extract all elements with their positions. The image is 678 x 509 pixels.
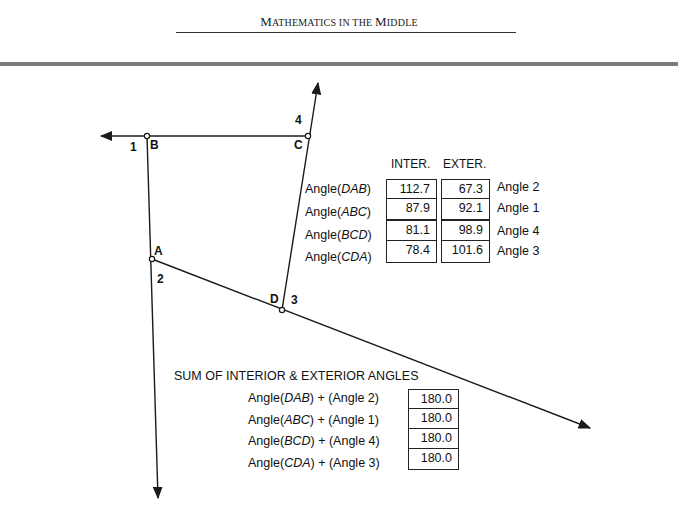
point-c[interactable]: [305, 133, 310, 138]
exterior-angle-label: Angle 2: [497, 180, 539, 194]
col-header-exterior: EXTER.: [443, 157, 486, 171]
sum-row-label: Angle(ABC) + (Angle 1): [248, 413, 379, 427]
angle-name: CDA: [341, 250, 367, 264]
interior-value: 81.1: [386, 220, 437, 241]
angle-name: DAB: [284, 391, 310, 405]
exterior-value: 98.9: [441, 220, 490, 241]
label-prefix: Angle(: [248, 434, 284, 448]
label-d: D: [270, 292, 279, 306]
label-suffix: ) + (Angle 3): [311, 456, 380, 470]
label-prefix: Angle(: [248, 456, 284, 470]
label-c: C: [294, 138, 303, 152]
interior-value: 112.7: [386, 179, 437, 199]
exterior-value: 92.1: [441, 199, 490, 220]
interior-value: 78.4: [386, 240, 437, 263]
sum-row-label: Angle(BCD) + (Angle 4): [248, 434, 380, 448]
angle-1-label: 1: [130, 140, 137, 154]
sum-value: 180.0: [408, 448, 459, 470]
label-suffix: ) + (Angle 2): [310, 391, 379, 405]
sum-table-title: SUM OF INTERIOR & EXTERIOR ANGLES: [174, 369, 418, 383]
sum-row-label: Angle(DAB) + (Angle 2): [248, 391, 379, 405]
point-b[interactable]: [144, 133, 149, 138]
exterior-value: 101.6: [441, 240, 490, 263]
label-prefix: Angle(: [305, 250, 341, 264]
angle-name: DAB: [341, 182, 367, 196]
label-suffix: ): [368, 228, 372, 242]
angle-4-label: 4: [295, 113, 302, 127]
angle-name: ABC: [284, 413, 310, 427]
point-d[interactable]: [279, 307, 284, 312]
sum-value: 180.0: [408, 408, 459, 429]
label-prefix: Angle(: [248, 413, 284, 427]
label-prefix: Angle(: [305, 205, 341, 219]
angle-name: ABC: [341, 205, 367, 219]
sum-value: 180.0: [408, 428, 459, 449]
label-prefix: Angle(: [305, 228, 341, 242]
exterior-angle-label: Angle 3: [497, 244, 539, 258]
label-suffix: ) + (Angle 1): [310, 413, 379, 427]
label-suffix: ): [368, 250, 372, 264]
label-suffix: ): [367, 182, 371, 196]
line-ba-ray-down: [147, 136, 158, 498]
label-prefix: Angle(: [248, 391, 284, 405]
exterior-angle-label: Angle 1: [497, 201, 539, 215]
angle-2-label: 2: [157, 272, 164, 286]
interior-value: 87.9: [386, 199, 437, 220]
label-a: A: [154, 244, 163, 258]
label-prefix: Angle(: [305, 182, 341, 196]
angle-name: BCD: [284, 434, 310, 448]
angle-name: CDA: [284, 456, 310, 470]
label-suffix: ) + (Angle 4): [311, 434, 380, 448]
angle-row-label: Angle(DAB): [305, 182, 371, 196]
exterior-angle-label: Angle 4: [497, 224, 539, 238]
col-header-interior: INTER.: [391, 157, 430, 171]
sum-row-label: Angle(CDA) + (Angle 3): [248, 456, 380, 470]
label-b: B: [150, 138, 159, 152]
label-suffix: ): [367, 205, 371, 219]
exterior-value: 67.3: [441, 179, 490, 199]
angle-row-label: Angle(ABC): [305, 205, 371, 219]
sum-value: 180.0: [408, 389, 459, 409]
angle-row-label: Angle(BCD): [305, 228, 372, 242]
angle-name: BCD: [341, 228, 367, 242]
angle-row-label: Angle(CDA): [305, 250, 372, 264]
angle-3-label: 3: [291, 293, 298, 307]
